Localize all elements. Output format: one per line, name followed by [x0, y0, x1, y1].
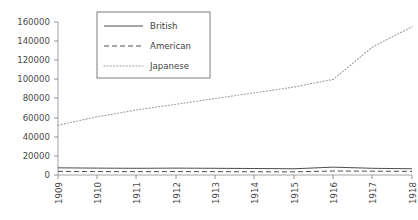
legend-label-american: American	[150, 41, 191, 51]
x-axis-ticks	[58, 175, 412, 179]
legend-label-british: British	[150, 21, 178, 31]
series-line-british	[58, 167, 412, 169]
chart-figure: 160000 140000 120000 100000 80000 60000 …	[0, 0, 418, 220]
y-tick-label: 0	[45, 170, 50, 180]
x-tick-label: 1917	[368, 182, 378, 204]
y-tick-label: 160000	[17, 17, 50, 27]
x-tick-label: 1914	[250, 182, 260, 204]
x-tick-label: 1911	[132, 182, 142, 204]
y-tick-label: 20000	[23, 151, 50, 161]
x-axis-tick-labels: 1909 1910 1911 1912 1913 1914 1915 1916 …	[54, 182, 418, 204]
y-axis-ticks	[54, 22, 58, 175]
legend: British American Japanese	[97, 12, 210, 78]
line-chart: 160000 140000 120000 100000 80000 60000 …	[0, 0, 418, 220]
x-tick-label: 1915	[290, 182, 300, 204]
x-tick-label: 1916	[329, 182, 339, 204]
legend-label-japanese: Japanese	[149, 61, 189, 71]
x-tick-label: 1913	[211, 182, 221, 204]
x-tick-label: 1918	[408, 182, 418, 204]
y-tick-label: 40000	[23, 132, 50, 142]
series-line-american	[58, 171, 412, 172]
y-axis-tick-labels: 160000 140000 120000 100000 80000 60000 …	[17, 17, 50, 180]
x-tick-label: 1909	[54, 182, 64, 204]
y-tick-label: 140000	[17, 36, 50, 46]
y-tick-label: 120000	[17, 55, 50, 65]
y-tick-label: 60000	[23, 113, 50, 123]
x-tick-label: 1912	[172, 182, 182, 204]
y-tick-label: 80000	[23, 93, 50, 103]
x-tick-label: 1910	[93, 182, 103, 204]
y-tick-label: 100000	[17, 74, 50, 84]
